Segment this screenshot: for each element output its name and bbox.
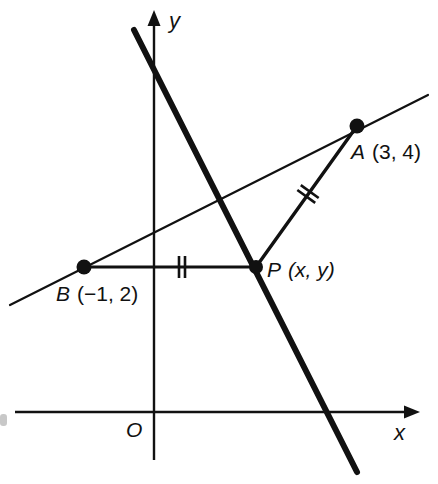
point-a-label: A(3, 4) [349, 140, 421, 163]
origin-label: O [126, 418, 142, 441]
point-b-dot [77, 260, 92, 275]
point-a-letter: A [349, 140, 365, 163]
point-b-label: B(−1, 2) [56, 282, 138, 305]
figure-canvas: A(3, 4) B(−1, 2) P(x, y) O x y [0, 0, 438, 484]
x-axis-label: x [393, 420, 406, 445]
point-p-dot [249, 260, 263, 274]
point-a-dot [350, 119, 365, 134]
perpendicular-bisector-line [134, 30, 357, 472]
point-b-coords: (−1, 2) [77, 282, 138, 305]
x-axis [15, 406, 420, 419]
point-a-coords: (3, 4) [372, 140, 421, 163]
point-p-label: P(x, y) [267, 258, 335, 281]
edge-smudge-artifact [0, 414, 7, 426]
y-axis-label: y [167, 8, 182, 33]
point-p-letter: P [267, 258, 281, 281]
point-b-letter: B [56, 282, 70, 305]
geometry-figure: A(3, 4) B(−1, 2) P(x, y) O x y [0, 0, 438, 484]
point-p-coords: (x, y) [288, 258, 335, 281]
